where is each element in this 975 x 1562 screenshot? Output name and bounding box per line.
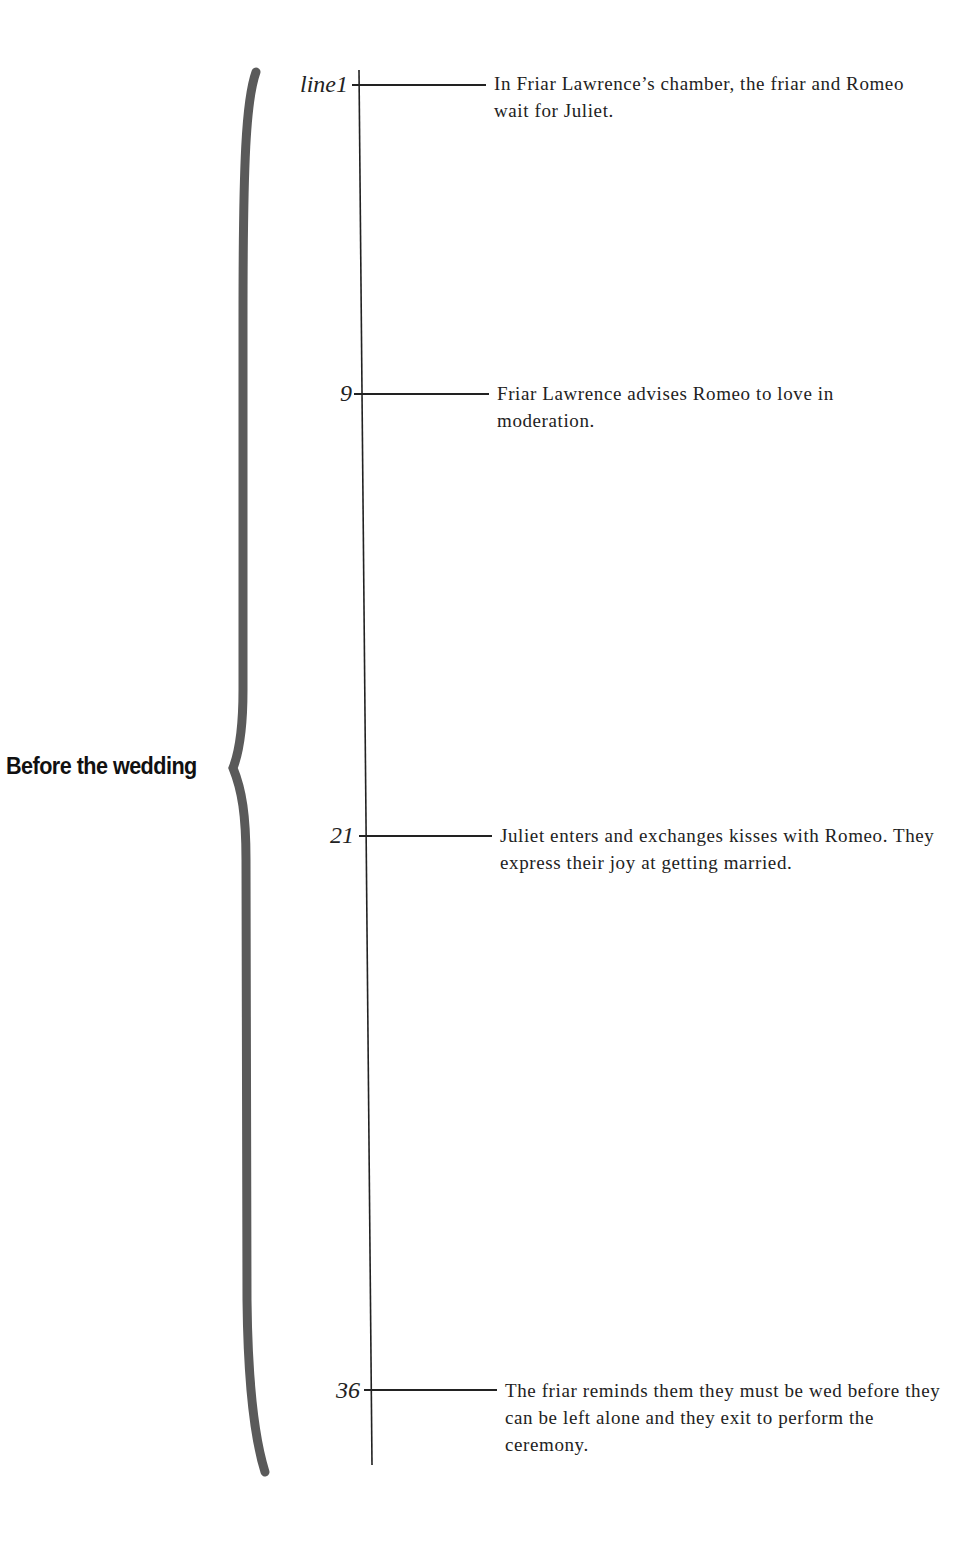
event-description: In Friar Lawrence’s chamber, the friar a…	[494, 70, 934, 124]
event-description: Friar Lawrence advises Romeo to love in …	[497, 380, 937, 434]
line-label: 9	[272, 380, 352, 407]
timeline-graphics	[0, 0, 975, 1562]
event-description: Juliet enters and exchanges kisses with …	[500, 822, 940, 876]
line-label: 21	[274, 822, 354, 849]
event-description: The friar reminds them they must be wed …	[505, 1377, 950, 1458]
line-label: 36	[280, 1377, 360, 1404]
line-label: line1	[268, 71, 348, 98]
scene-timeline-diagram: Before the wedding line1 In Friar Lawren…	[0, 0, 975, 1562]
timeline-axis	[359, 70, 372, 1465]
group-label: Before the wedding	[6, 752, 197, 780]
curly-brace-icon	[233, 72, 265, 1472]
